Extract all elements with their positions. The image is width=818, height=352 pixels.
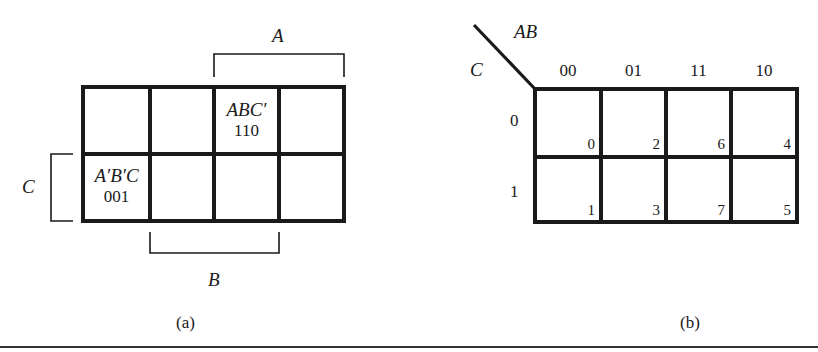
column-header-01: 01 [601,62,666,79]
cell-index: 0 [535,137,595,152]
cell-a-prime-b-prime-c: A′B′C 001 [83,166,150,205]
label-a-variable: A [272,26,284,45]
cell-index: 5 [731,203,791,218]
bracket-b [150,232,279,253]
label-ab-variable: AB [514,22,537,41]
label-c-variable: C [22,177,35,196]
cell-code: 001 [83,188,150,205]
column-header-11: 11 [666,62,731,79]
caption-a: (a) [176,314,195,331]
cell-index: 1 [535,203,595,218]
cell-index: 2 [601,137,660,152]
cell-term: ABC′ [214,100,279,119]
cell-term: A′B′C [83,166,150,185]
label-c-row-variable: C [470,60,483,79]
bracket-c [51,154,73,221]
caption-b: (b) [680,314,700,331]
cell-index: 7 [666,203,725,218]
column-header-00: 00 [535,62,601,79]
row-header-0: 0 [510,112,519,129]
cell-index: 6 [666,137,725,152]
cell-code: 110 [214,122,279,139]
label-b-variable: B [208,270,220,289]
row-header-1: 1 [510,183,519,200]
cell-index: 4 [731,137,791,152]
column-header-10: 10 [731,62,797,79]
cell-index: 3 [601,203,660,218]
cell-abc-prime: ABC′ 110 [214,100,279,139]
bracket-a [214,54,344,77]
